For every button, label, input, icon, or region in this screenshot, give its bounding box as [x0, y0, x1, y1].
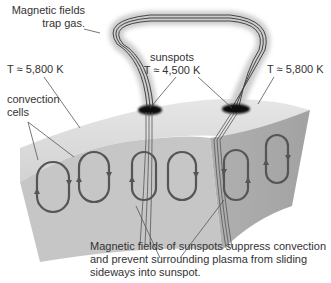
label-temp-left: T ≈ 5,800 K	[7, 63, 64, 76]
label-temp-right: T ≈ 5,800 K	[267, 63, 324, 76]
caption-line: sideways into sunspot.	[90, 266, 326, 279]
label-line: convection	[7, 93, 60, 106]
sunspot-right	[222, 104, 250, 114]
label-line: T ≈ 4,500 K	[132, 64, 212, 77]
caption-line: Magnetic fields of sunspots suppress con…	[90, 240, 326, 253]
label-line: Magnetic fields	[3, 4, 85, 17]
sunspot-diagram: Magnetic fields trap gas. T ≈ 5,800 K su…	[0, 0, 331, 283]
label-line: sunspots	[132, 51, 212, 64]
caption-line: and prevent surrounding plasma from slid…	[90, 253, 326, 266]
label-convection-cells: convection cells	[7, 93, 60, 119]
caption: Magnetic fields of sunspots suppress con…	[90, 240, 326, 279]
label-magnetic-fields-trap: Magnetic fields trap gas.	[3, 4, 85, 30]
label-sunspots: sunspots T ≈ 4,500 K	[132, 51, 212, 77]
sunspot-left	[138, 105, 162, 115]
label-line: cells	[7, 106, 60, 119]
label-line: trap gas.	[3, 17, 85, 30]
